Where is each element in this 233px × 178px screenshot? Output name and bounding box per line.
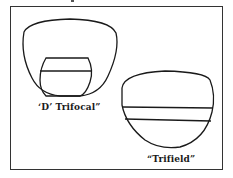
d-trifocal-segment — [40, 58, 92, 96]
trifield-upper-line — [123, 107, 213, 108]
trifield-lens — [122, 71, 214, 148]
d-trifocal-lens — [23, 19, 117, 96]
trifield-outer-outline — [122, 71, 214, 148]
trifield-lower-line — [125, 119, 211, 121]
d-trifocal-label: ‘D’ Trifocal” — [38, 102, 101, 112]
trifield-label: “Trifield” — [147, 154, 195, 164]
lens-diagrams — [0, 0, 233, 178]
